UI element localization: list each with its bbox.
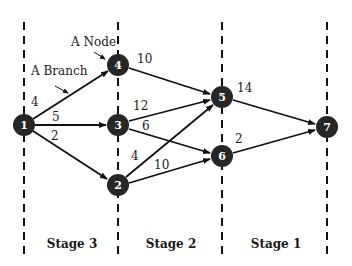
stage-boundaries <box>24 22 327 254</box>
edge-1-4 <box>33 71 108 119</box>
node-3-label: 3 <box>114 119 122 132</box>
stage-3-label: Stage 3 <box>47 237 98 251</box>
node-2-label: 2 <box>114 179 122 192</box>
weight-4-5: 10 <box>137 52 152 66</box>
stage-1-label: Stage 1 <box>251 237 302 251</box>
weight-1-3: 5 <box>52 110 60 124</box>
branch-annotation-label: A Branch <box>30 64 88 78</box>
network-diagram: 4 5 2 10 12 6 4 10 14 2 A Node A Branch … <box>0 0 352 266</box>
stage-2-label: Stage 2 <box>146 237 197 251</box>
edge-1-2 <box>33 131 107 179</box>
weight-3-5: 12 <box>133 99 148 113</box>
node-1-label: 1 <box>20 119 28 132</box>
edges <box>33 68 315 183</box>
weight-6-7: 2 <box>235 132 243 146</box>
node-1: 1 <box>13 114 35 136</box>
node-7-label: 7 <box>323 121 331 134</box>
weight-3-6: 6 <box>142 119 150 133</box>
node-5: 5 <box>211 86 233 108</box>
branch-pointer-line <box>55 86 68 93</box>
node-4: 4 <box>107 54 129 76</box>
node-5-label: 5 <box>218 91 226 104</box>
edge-5-7 <box>233 100 315 124</box>
weight-1-2: 2 <box>51 129 59 143</box>
edge-2-6 <box>129 159 210 183</box>
edge-4-5 <box>129 68 210 94</box>
stage-labels: Stage 3 Stage 2 Stage 1 <box>47 237 302 251</box>
node-2: 2 <box>107 174 129 196</box>
node-annotation-label: A Node <box>70 35 116 49</box>
edge-2-5 <box>126 105 213 177</box>
node-6: 6 <box>211 145 233 167</box>
weight-5-7: 14 <box>237 81 253 95</box>
weight-2-6: 10 <box>154 158 169 172</box>
weight-1-4: 4 <box>31 95 39 109</box>
node-pointer-line <box>94 52 105 59</box>
node-7: 7 <box>316 116 338 138</box>
edge-6-7 <box>233 130 315 153</box>
weight-2-5: 4 <box>131 149 139 163</box>
node-4-label: 4 <box>114 59 122 72</box>
node-6-label: 6 <box>218 150 226 163</box>
node-3: 3 <box>107 114 129 136</box>
